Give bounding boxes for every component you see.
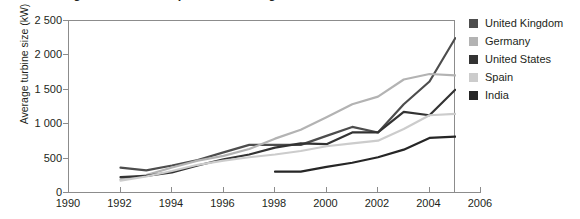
legend-item[interactable]: United States	[469, 50, 580, 68]
legend-label: India	[485, 90, 509, 101]
plot-lines	[69, 21, 456, 193]
x-tick-mark	[274, 187, 275, 193]
y-tick-label: 2 500	[16, 14, 62, 26]
x-tick-mark	[429, 187, 430, 193]
legend-swatch-icon	[469, 55, 478, 64]
y-tick-label: 1 500	[16, 83, 62, 95]
legend-item[interactable]: Germany	[469, 32, 580, 50]
x-tick-mark	[480, 187, 481, 193]
legend-label: United States	[485, 54, 551, 65]
figure-container: Figure 4.3.1 Development of average wind…	[0, 0, 580, 219]
plot-area	[68, 20, 455, 192]
y-tick-label: 500	[16, 152, 62, 164]
legend-item[interactable]: United Kingdom	[469, 14, 580, 32]
x-tick-mark	[223, 187, 224, 193]
legend-swatch-icon	[469, 73, 478, 82]
y-tick-label: 1 000	[16, 117, 62, 129]
y-tick-label: 2 000	[16, 48, 62, 60]
legend-item[interactable]: India	[469, 86, 580, 104]
legend-item[interactable]: Spain	[469, 68, 580, 86]
x-tick-mark	[68, 187, 69, 193]
x-tick-label: 2006	[450, 197, 510, 209]
series-line	[121, 38, 456, 170]
x-tick-mark	[171, 187, 172, 193]
legend-label: United Kingdom	[485, 18, 563, 29]
legend-swatch-icon	[469, 91, 478, 100]
x-tick-mark	[326, 187, 327, 193]
figure-title: Figure 4.3.1 Development of average wind…	[62, 0, 390, 1]
legend-swatch-icon	[469, 19, 478, 28]
series-line	[121, 74, 456, 179]
y-axis-tick-labels: 05001 0001 5002 0002 500	[10, 0, 62, 219]
legend-swatch-icon	[469, 37, 478, 46]
x-tick-mark	[120, 187, 121, 193]
legend-label: Spain	[485, 72, 513, 83]
x-tick-mark	[377, 187, 378, 193]
chart-legend: United KingdomGermanyUnited StatesSpainI…	[469, 14, 580, 104]
legend-label: Germany	[485, 36, 530, 47]
